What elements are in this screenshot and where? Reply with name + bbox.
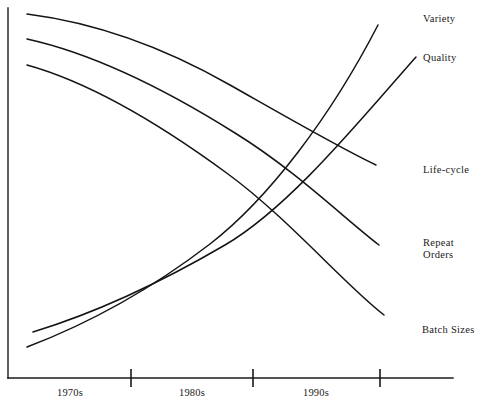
series-line-life-cycle — [27, 14, 376, 165]
series-label-repeat-orders-line2: Orders — [423, 249, 453, 262]
series-line-batch-sizes — [27, 65, 384, 315]
x-tick-label-1980s: 1980s — [162, 387, 222, 399]
series-label-life-cycle: Life-cycle — [423, 164, 469, 177]
x-tick-label-1990s: 1990s — [286, 387, 346, 399]
series-label-repeat-orders-line1: Repeat — [423, 237, 454, 250]
x-tick-label-1970s: 1970s — [40, 387, 100, 399]
series-line-variety — [27, 25, 378, 347]
series-label-variety: Variety — [423, 13, 455, 26]
chart-plot-area — [0, 0, 485, 405]
series-label-quality: Quality — [423, 52, 457, 65]
chart-container: Variety Quality Life-cycle Repeat Orders… — [0, 0, 485, 405]
series-line-quality — [33, 57, 416, 332]
series-label-batch-sizes: Batch Sizes — [422, 324, 475, 337]
